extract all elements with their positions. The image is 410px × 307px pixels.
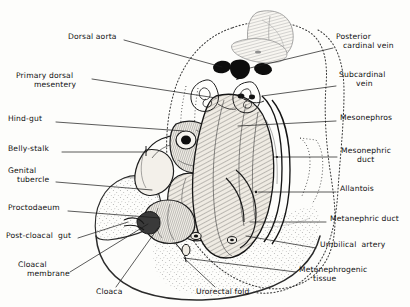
- label-urorectal-fold: Urorectal fold: [196, 287, 249, 296]
- label-posterior-cardinal-vein: Posteriorcardinal vein: [336, 32, 394, 50]
- label-cloacal-membrane: Cloacalmembrane: [18, 260, 70, 278]
- label-mesonephros: Mesonephros: [340, 113, 392, 122]
- label-belly-stalk: Belly-stalk: [8, 144, 49, 153]
- label-line-2: tissue: [299, 274, 336, 283]
- label-umbilical-artery: Umbilical artery: [320, 240, 385, 249]
- leader-subcardinal-vein: [262, 86, 336, 96]
- leader-primary-dorsal-mesentery: [92, 79, 216, 98]
- label-primary-dorsal-mesentery: Primary dorsalmesentery: [16, 71, 76, 89]
- label-hind-gut: Hind-gut: [8, 114, 42, 123]
- label-line-1: Primary dorsal: [16, 71, 73, 80]
- label-allantois: Allantois: [340, 184, 374, 193]
- label-line-2: cardinal vein: [336, 41, 394, 50]
- label-line-1: Mesonephric: [341, 146, 391, 155]
- label-mesonephric-duct: Mesonephricduct: [341, 146, 391, 164]
- label-line-1: Metanephrogenic: [299, 265, 367, 274]
- label-line-1: Genital: [8, 166, 36, 175]
- label-cloaca: Cloaca: [96, 287, 122, 296]
- cardinal-vein-right: [253, 62, 272, 76]
- label-line-1: Cloacal: [18, 260, 47, 269]
- label-dorsal-aorta: Dorsal aorta: [68, 32, 117, 41]
- label-post-cloacal-gut: Post-cloacal gut: [6, 231, 71, 240]
- label-line-2: tubercle: [8, 175, 49, 184]
- label-subcardinal-vein: Subcardinalvein: [339, 70, 385, 88]
- label-line-1: Subcardinal: [339, 70, 385, 79]
- label-metanephric-duct: Metanephric duct: [330, 214, 399, 223]
- label-line-2: vein: [339, 79, 373, 88]
- leader-hind-gut: [56, 122, 184, 131]
- label-line-2: mesentery: [16, 80, 76, 89]
- label-proctodaeum: Proctodaeum: [8, 203, 60, 212]
- label-genital-tubercle: Genitaltubercle: [8, 166, 49, 184]
- figure-canvas: Dorsal aorta Primary dorsalmesentery Hin…: [0, 0, 410, 307]
- label-line-2: membrane: [18, 269, 70, 278]
- label-line-1: Posterior: [336, 32, 371, 41]
- leader-dorsal-aorta: [124, 40, 222, 67]
- subcardinal-vein-right: [249, 95, 255, 100]
- neural-tube-region: [232, 11, 294, 63]
- label-metanephrogenic-tissue: Metanephrogenictissue: [299, 265, 367, 283]
- label-line-2: duct: [341, 155, 374, 164]
